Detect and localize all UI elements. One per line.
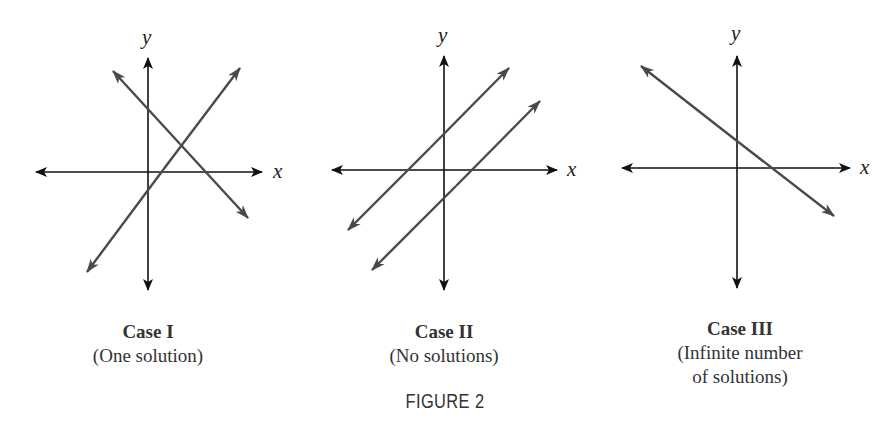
caption-case-2: Case II (No solutions) bbox=[334, 320, 554, 368]
coincident-lines bbox=[737, 141, 834, 216]
y-axis-label: y bbox=[436, 23, 448, 47]
case-subtitle: (One solution) bbox=[38, 344, 258, 368]
line-b bbox=[163, 68, 240, 170]
x-axis-label: x bbox=[859, 155, 870, 179]
coincident-lines bbox=[641, 66, 737, 141]
case-subtitle: (No solutions) bbox=[334, 344, 554, 368]
line-a bbox=[430, 68, 509, 148]
line-b bbox=[456, 101, 540, 186]
x-axis-label: x bbox=[566, 157, 577, 181]
case-subtitle: of solutions) bbox=[630, 365, 850, 389]
line-a bbox=[348, 148, 430, 230]
case-subtitle: (Infinite number bbox=[630, 341, 850, 365]
case-title: Case II bbox=[334, 320, 554, 344]
y-axis-label: y bbox=[140, 25, 152, 49]
line-b bbox=[87, 170, 163, 272]
line-a bbox=[180, 144, 248, 218]
line-a bbox=[113, 71, 180, 144]
caption-case-3: Case III (Infinite number of solutions) bbox=[630, 317, 850, 389]
panel-case-1: x y bbox=[36, 25, 283, 290]
panel-case-3: x y bbox=[622, 21, 870, 288]
figure-label: FIGURE 2 bbox=[392, 390, 499, 413]
caption-case-1: Case I (One solution) bbox=[38, 320, 258, 368]
case-title: Case III bbox=[630, 317, 850, 341]
panel-case-2: x y bbox=[332, 23, 577, 290]
y-axis-label: y bbox=[729, 21, 741, 45]
case-title: Case I bbox=[38, 320, 258, 344]
x-axis-label: x bbox=[272, 159, 283, 183]
